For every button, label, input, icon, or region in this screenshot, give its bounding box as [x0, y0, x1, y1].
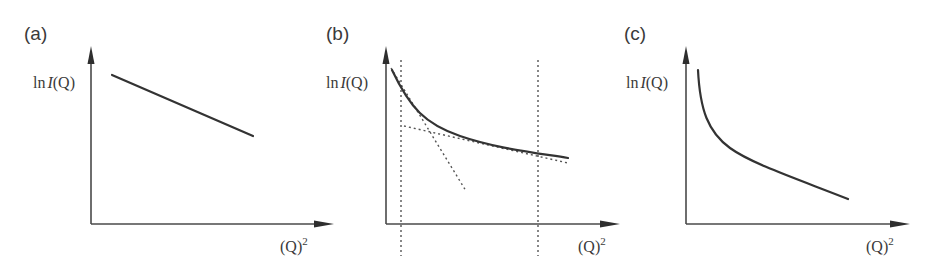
panel-a-linear-curve — [112, 75, 253, 136]
panel-b-steep-tangent — [391, 68, 466, 191]
panel-c-x-arrow-icon — [890, 221, 910, 228]
panel-b-y-arrow-icon — [383, 46, 390, 64]
panel-a-y-label: lnI(Q) — [33, 74, 75, 92]
panel-a: (a) lnI(Q) (Q)2 — [24, 23, 334, 256]
panel-c-y-label: lnI(Q) — [626, 74, 668, 92]
panel-c-decay-curve — [698, 70, 848, 199]
panel-b-label: (b) — [326, 23, 349, 44]
panel-a-x-label: (Q)2 — [280, 235, 308, 256]
panel-c-label: (c) — [624, 23, 646, 44]
panel-c: (c) lnI(Q) (Q)2 — [624, 23, 910, 256]
panel-b-x-label: (Q)2 — [578, 235, 606, 256]
panel-b-x-arrow-icon — [600, 221, 620, 228]
panel-b-y-label: lnI(Q) — [326, 74, 368, 92]
guinier-plot-figure: (a) lnI(Q) (Q)2 (b) lnI(Q) (Q)2 — [0, 0, 928, 268]
panel-a-label: (a) — [24, 23, 47, 44]
panel-c-x-label: (Q)2 — [866, 235, 894, 256]
panel-a-x-arrow-icon — [314, 221, 334, 228]
panel-a-y-arrow-icon — [88, 46, 95, 64]
panel-c-y-arrow-icon — [683, 46, 690, 64]
panel-b: (b) lnI(Q) (Q)2 — [326, 23, 620, 256]
panel-b-decay-curve — [392, 70, 568, 158]
